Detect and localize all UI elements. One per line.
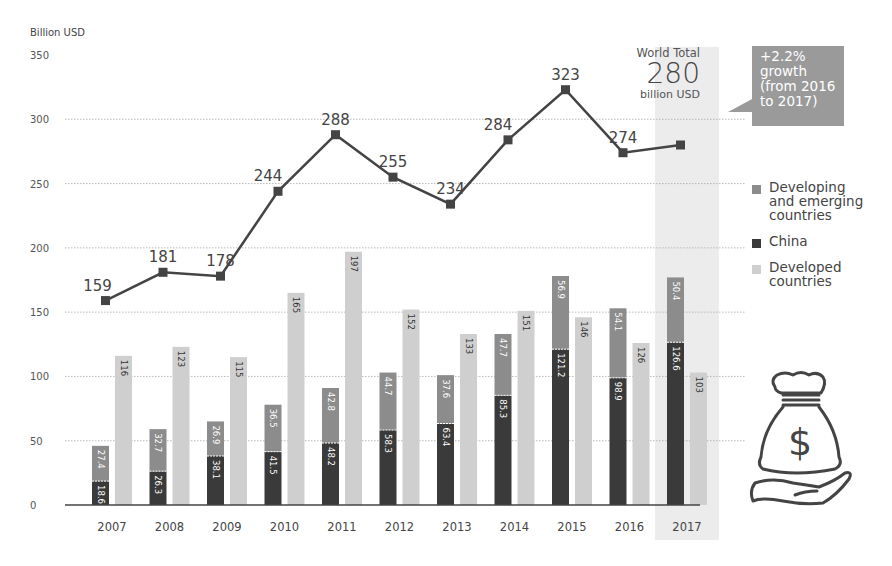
y-tick-label: 200 bbox=[30, 243, 49, 254]
legend-swatch-china bbox=[752, 239, 761, 248]
legend-item-developed: Developed countries bbox=[752, 260, 892, 288]
bar-value-label: 121.2 bbox=[556, 353, 566, 377]
bar-value-label: 58.3 bbox=[383, 434, 393, 453]
bar-developed bbox=[230, 357, 247, 505]
bar-value-label: 18.6 bbox=[96, 485, 106, 504]
x-tick-label: 2012 bbox=[385, 520, 414, 534]
line-marker bbox=[159, 268, 168, 277]
y-tick-label: 50 bbox=[30, 436, 43, 447]
y-tick-label: 300 bbox=[30, 114, 49, 125]
world-total-line bbox=[106, 90, 681, 301]
highlight-band bbox=[655, 47, 719, 540]
world-total-value: 280 bbox=[606, 60, 700, 88]
line-value-label: 284 bbox=[484, 116, 513, 134]
bar-value-label: 47.7 bbox=[498, 338, 508, 357]
legend-label: Developed countries bbox=[769, 260, 841, 288]
line-value-label: 181 bbox=[149, 248, 178, 266]
x-tick-label: 2011 bbox=[327, 520, 356, 534]
bar-value-label: 37.6 bbox=[441, 379, 451, 398]
bar-developed bbox=[288, 293, 305, 505]
x-tick-label: 2016 bbox=[615, 520, 644, 534]
bar-developed bbox=[115, 356, 132, 505]
bar-value-label: 54.1 bbox=[613, 312, 623, 331]
money-bag-hand-icon: $ bbox=[745, 345, 865, 519]
bar-value-label: 32.7 bbox=[153, 433, 163, 452]
bar-value-label: 48.2 bbox=[326, 447, 336, 466]
growth-callout: +2.2% growth (from 2016 to 2017) bbox=[752, 46, 844, 126]
bar-value-label: 126.6 bbox=[671, 346, 681, 370]
bar-value-label: 146 bbox=[579, 321, 589, 337]
bar-value-label: 123 bbox=[176, 351, 186, 367]
bar-value-label: 42.8 bbox=[326, 392, 336, 411]
x-tick-label: 2008 bbox=[155, 520, 184, 534]
bar-value-label: 85.3 bbox=[498, 399, 508, 418]
bar-value-label: 98.9 bbox=[613, 382, 623, 401]
y-tick-label: 150 bbox=[30, 307, 49, 318]
legend-swatch-developed bbox=[752, 265, 761, 274]
bar-value-label: 116 bbox=[119, 360, 129, 376]
x-tick-label: 2013 bbox=[442, 520, 471, 534]
line-marker bbox=[389, 173, 398, 182]
bar-developed bbox=[403, 310, 420, 505]
x-tick-label: 2010 bbox=[270, 520, 299, 534]
y-tick-label: 100 bbox=[30, 371, 49, 382]
bar-value-label: 165 bbox=[291, 297, 301, 313]
line-value-label: 255 bbox=[379, 153, 408, 171]
line-value-label: 159 bbox=[83, 277, 112, 295]
line-marker bbox=[446, 200, 455, 209]
y-tick-label: 250 bbox=[30, 179, 49, 190]
line-marker bbox=[676, 141, 685, 150]
bar-developed bbox=[518, 311, 535, 505]
legend: Developing and emerging countries China … bbox=[752, 180, 892, 300]
bar-developed bbox=[575, 317, 592, 505]
bar-value-label: 44.7 bbox=[383, 377, 393, 396]
legend-item-china: China bbox=[752, 234, 892, 248]
line-value-label: 244 bbox=[254, 167, 283, 185]
bar-value-label: 133 bbox=[464, 338, 474, 354]
y-axis-unit-label: Billion USD bbox=[30, 27, 85, 38]
bar-value-label: 63.4 bbox=[441, 427, 451, 446]
line-marker bbox=[274, 187, 283, 196]
bar-developed bbox=[345, 252, 362, 505]
line-value-label: 178 bbox=[206, 252, 235, 270]
bar-value-label: 26.9 bbox=[211, 425, 221, 444]
bar-value-label: 115 bbox=[234, 361, 244, 377]
bar-value-label: 126 bbox=[636, 347, 646, 363]
x-tick-label: 2014 bbox=[500, 520, 529, 534]
bar-developed bbox=[173, 347, 190, 505]
x-tick-label: 2017 bbox=[672, 520, 701, 534]
x-tick-label: 2009 bbox=[212, 520, 241, 534]
world-total-annotation: World Total 280 billion USD bbox=[606, 46, 700, 101]
bar-value-label: 103 bbox=[694, 377, 704, 393]
line-marker bbox=[216, 272, 225, 281]
line-marker bbox=[619, 148, 628, 157]
bar-developed bbox=[460, 334, 477, 505]
bar-value-label: 151 bbox=[521, 315, 531, 331]
line-value-label: 288 bbox=[321, 111, 350, 129]
x-tick-label: 2007 bbox=[97, 520, 126, 534]
line-marker bbox=[561, 85, 570, 94]
bar-developed bbox=[633, 343, 650, 505]
line-marker bbox=[504, 135, 513, 144]
bar-value-label: 50.4 bbox=[671, 281, 681, 300]
svg-text:$: $ bbox=[788, 420, 812, 464]
line-value-label: 323 bbox=[551, 66, 580, 84]
y-tick-label: 0 bbox=[30, 500, 36, 511]
legend-swatch-developing bbox=[752, 185, 761, 194]
bar-value-label: 41.5 bbox=[268, 456, 278, 475]
bar-value-label: 36.5 bbox=[268, 409, 278, 428]
bar-value-label: 27.4 bbox=[96, 450, 106, 469]
legend-item-developing: Developing and emerging countries bbox=[752, 180, 892, 222]
line-marker bbox=[101, 296, 110, 305]
bar-value-label: 38.1 bbox=[211, 460, 221, 479]
bar-value-label: 56.9 bbox=[556, 280, 566, 299]
line-value-label: 234 bbox=[436, 180, 465, 198]
line-marker bbox=[331, 130, 340, 139]
legend-label: Developing and emerging countries bbox=[769, 180, 863, 222]
growth-callout-pointer bbox=[728, 98, 754, 112]
bar-value-label: 26.3 bbox=[153, 475, 163, 494]
legend-label: China bbox=[769, 234, 808, 248]
world-total-unit: billion USD bbox=[606, 88, 700, 101]
y-tick-label: 350 bbox=[30, 50, 49, 61]
bar-value-label: 197 bbox=[349, 256, 359, 272]
